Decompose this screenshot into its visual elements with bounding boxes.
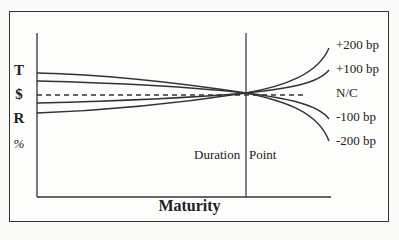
y-label-r: R xyxy=(12,110,26,127)
label-minus-200bp: -200 bp xyxy=(336,133,376,149)
y-label-dollar: $ xyxy=(12,86,26,103)
duration-label: Duration xyxy=(194,147,240,163)
curve-minus-100bp xyxy=(37,81,329,119)
label-no-change: N/C xyxy=(336,85,358,101)
y-label-t: T xyxy=(12,62,26,79)
label-plus-100bp: +100 bp xyxy=(336,61,379,77)
label-plus-200bp: +200 bp xyxy=(336,37,379,53)
y-label-percent: % xyxy=(12,136,26,152)
point-label: Point xyxy=(249,147,276,163)
x-axis-label: Maturity xyxy=(0,197,399,215)
label-minus-100bp: -100 bp xyxy=(336,109,376,125)
